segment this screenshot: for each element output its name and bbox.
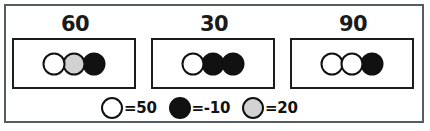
group-total-label: 60 xyxy=(12,14,138,36)
legend-chip-white-icon xyxy=(101,97,123,119)
chip-row xyxy=(43,52,106,75)
legend: =50 =-10 =20 xyxy=(101,94,331,122)
chip-white xyxy=(43,52,66,75)
chip-group-2: 30 xyxy=(151,14,277,89)
chip-row xyxy=(321,52,384,75)
puzzle-figure: 60 30 90 xyxy=(0,0,430,131)
legend-item-black: =-10 xyxy=(169,97,230,119)
group-total-label: 90 xyxy=(290,14,416,36)
chip-group-1: 60 xyxy=(12,14,138,89)
group-total-label: 30 xyxy=(151,14,277,36)
group-box xyxy=(12,38,136,89)
chip-group-3: 90 xyxy=(290,14,416,89)
legend-value-black: =-10 xyxy=(192,101,230,116)
group-box xyxy=(290,38,414,89)
legend-value-gray: =20 xyxy=(265,101,298,116)
chip-white xyxy=(341,52,364,75)
chip-black xyxy=(361,52,384,75)
outer-frame: 60 30 90 xyxy=(4,4,424,123)
chip-white xyxy=(182,52,205,75)
chip-black xyxy=(222,52,245,75)
chip-gray xyxy=(63,52,86,75)
legend-item-gray: =20 xyxy=(242,97,298,119)
legend-chip-gray-icon xyxy=(242,97,264,119)
legend-item-white: =50 xyxy=(101,97,157,119)
legend-chip-black-icon xyxy=(169,97,191,119)
chip-row xyxy=(182,52,245,75)
legend-value-white: =50 xyxy=(124,101,157,116)
chip-black xyxy=(83,52,106,75)
group-box xyxy=(151,38,275,89)
